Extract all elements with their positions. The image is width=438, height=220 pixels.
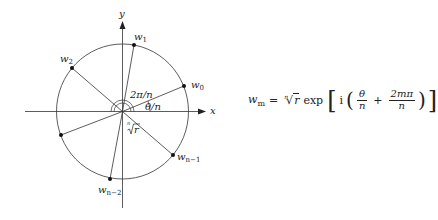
formula-rbracket: ] <box>428 88 437 112</box>
formula-nth-root: n√r <box>284 94 299 107</box>
formula-plus: + <box>373 94 382 107</box>
roots-formula: wm = n√r exp [ i ( θn + 2mπn ) ] <box>248 88 438 112</box>
formula-exp: exp <box>303 94 323 107</box>
y-axis-label: y <box>118 8 125 19</box>
label-wn-2: wn−2 <box>98 184 121 197</box>
point-w1 <box>132 43 136 47</box>
label-nth-root-r: n r <box>127 120 140 135</box>
point-w2 <box>70 66 74 70</box>
formula-lbracket: [ <box>327 88 336 112</box>
label-w0: w0 <box>191 79 204 92</box>
svg-text:n: n <box>127 120 130 126</box>
point-unlabeled <box>59 133 63 137</box>
label-2pi-over-n: 2π/n <box>129 89 153 100</box>
formula-lparen: ( <box>346 90 354 110</box>
formula-imag: i <box>340 94 344 107</box>
formula-rparen: ) <box>418 90 426 110</box>
label-w1: w1 <box>134 31 147 44</box>
x-axis-label: x <box>210 105 216 116</box>
label-w2: w2 <box>60 53 73 66</box>
label-theta-over-n: θ/n <box>145 101 161 112</box>
formula-lhs: wm <box>248 93 265 108</box>
formula-frac-2mpi-n: 2mπn <box>389 89 415 111</box>
point-wn-1 <box>171 153 175 157</box>
formula-frac-theta-n: θn <box>357 89 367 111</box>
point-w0 <box>182 84 186 88</box>
label-wn-1: wn−1 <box>177 151 200 164</box>
formula-equals: = <box>269 94 278 107</box>
point-wn-2 <box>108 177 112 181</box>
